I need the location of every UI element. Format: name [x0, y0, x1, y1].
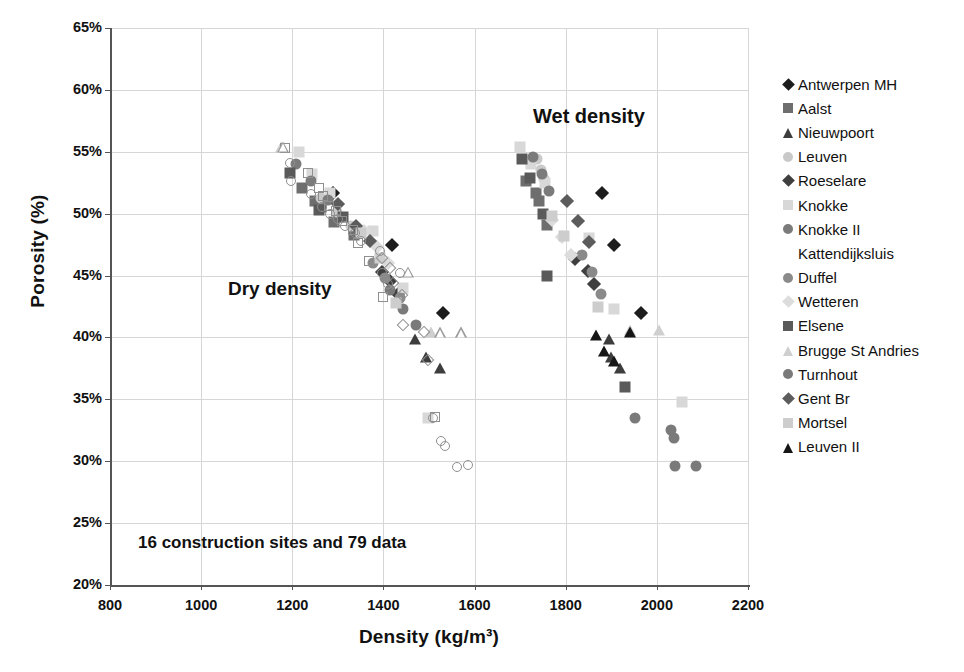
legend-label: Elsene — [797, 317, 844, 334]
legend-marker-circle-icon — [779, 369, 797, 379]
y-tickmark — [105, 399, 110, 400]
legend-marker-diamond-icon — [779, 80, 797, 89]
legend-marker-square-icon — [779, 200, 797, 210]
x-axis-line — [110, 585, 750, 587]
data-point — [690, 461, 701, 472]
gridline-vertical — [475, 28, 476, 585]
legend-item[interactable]: Brugge St Andries — [779, 338, 961, 362]
y-tickmark — [105, 90, 110, 91]
legend-item[interactable]: Wetteren — [779, 290, 961, 314]
legend-item[interactable]: Knokke — [779, 193, 961, 217]
legend-label: Duffel — [797, 269, 837, 286]
legend-marker-circle-icon — [779, 224, 797, 234]
legend-marker-square-icon — [779, 103, 797, 113]
x-tickmark — [110, 585, 111, 590]
legend-marker-triangle-icon — [779, 345, 797, 355]
x-tickmark — [383, 585, 384, 590]
data-point — [318, 191, 328, 201]
x-tick-label: 1600 — [440, 597, 510, 613]
legend-marker-diamond-icon — [779, 176, 797, 185]
legend-item[interactable]: Leuven II — [779, 435, 961, 459]
x-tick-label: 2000 — [622, 597, 692, 613]
data-point — [294, 146, 305, 157]
data-point — [595, 186, 609, 200]
gridline-horizontal — [110, 214, 748, 215]
legend-item[interactable]: Duffel — [779, 266, 961, 290]
data-point — [364, 256, 374, 266]
legend-marker-diamond-icon — [779, 394, 797, 403]
data-point — [634, 306, 648, 320]
legend-item[interactable]: Aalst — [779, 96, 961, 120]
data-point — [571, 214, 585, 228]
data-point — [463, 460, 473, 470]
data-point — [606, 238, 620, 252]
legend-item[interactable]: Gent Br — [779, 386, 961, 410]
legend-marker-square-icon — [779, 418, 797, 428]
legend-marker-circle-icon — [779, 152, 797, 162]
legend-label: Leuven — [797, 148, 847, 165]
legend-label: Knokke II — [797, 221, 861, 238]
legend-item[interactable]: Nieuwpoort — [779, 120, 961, 144]
legend-label: Mortsel — [797, 414, 847, 431]
legend-item[interactable]: Antwerpen MH — [779, 72, 961, 96]
data-point — [590, 329, 602, 340]
gridline-horizontal — [110, 152, 748, 153]
data-point — [397, 319, 410, 332]
y-tick-label: 55% — [46, 143, 102, 159]
data-point — [525, 172, 536, 183]
data-point — [286, 176, 296, 186]
legend-label: Knokke — [797, 197, 848, 214]
legend-label: Wetteren — [797, 293, 859, 310]
annotation-wet-density: Wet density — [533, 105, 645, 128]
data-point — [378, 292, 388, 302]
legend-item[interactable]: Knokke II — [779, 217, 961, 241]
gridline-horizontal — [110, 28, 748, 29]
legend-item[interactable]: Elsene — [779, 314, 961, 338]
data-point — [337, 216, 347, 226]
data-point — [452, 462, 462, 472]
data-point — [430, 412, 440, 422]
y-tick-label: 40% — [46, 328, 102, 344]
y-tick-label: 35% — [46, 390, 102, 406]
legend-item[interactable]: Mortsel — [779, 411, 961, 435]
data-point — [434, 327, 446, 338]
gridline-horizontal — [110, 461, 748, 462]
data-point — [543, 186, 554, 197]
y-tick-label: 50% — [46, 205, 102, 221]
gridline-vertical — [201, 28, 202, 585]
data-point — [560, 194, 574, 208]
legend-item[interactable]: Leuven — [779, 145, 961, 169]
legend-item[interactable]: Kattendijksluis — [779, 241, 961, 265]
y-tickmark — [105, 337, 110, 338]
legend-label: Antwerpen MH — [797, 76, 897, 93]
gridline-vertical — [383, 28, 384, 585]
data-point — [595, 289, 606, 300]
x-axis-title: Density (kg/m³) — [110, 626, 748, 648]
scatter-chart: Porosity (%) Density (kg/m³) 20%25%30%35… — [0, 0, 964, 672]
y-tickmark — [105, 28, 110, 29]
data-point — [348, 225, 358, 235]
legend-item[interactable]: Turnhout — [779, 362, 961, 386]
gridline-horizontal — [110, 90, 748, 91]
legend-label: Roeselare — [797, 172, 866, 189]
data-point — [440, 441, 450, 451]
plot-area — [110, 28, 748, 585]
gridline-horizontal — [110, 276, 748, 277]
y-tick-label: 45% — [46, 267, 102, 283]
data-point — [385, 238, 399, 252]
y-tickmark — [105, 523, 110, 524]
y-tick-label: 30% — [46, 452, 102, 468]
data-point — [624, 327, 636, 338]
x-tick-label: 1800 — [531, 597, 601, 613]
x-tickmark — [292, 585, 293, 590]
x-tickmark — [201, 585, 202, 590]
data-point — [516, 154, 527, 165]
data-point — [353, 238, 363, 248]
data-point — [609, 303, 620, 314]
legend-item[interactable]: Roeselare — [779, 169, 961, 193]
data-point — [603, 333, 615, 344]
y-tick-label: 25% — [46, 514, 102, 530]
y-axis-line — [110, 28, 112, 586]
data-point — [436, 306, 450, 320]
data-point — [534, 196, 545, 207]
